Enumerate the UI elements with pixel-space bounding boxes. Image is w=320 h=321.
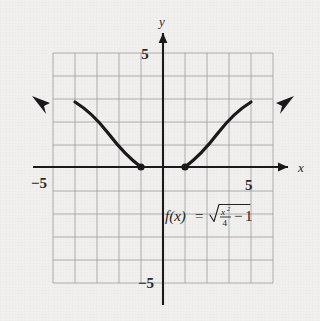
endpoint-dot-right	[181, 163, 188, 170]
x-axis-label: x	[297, 160, 304, 175]
figure-background	[0, 0, 320, 321]
y-axis-label: y	[157, 14, 165, 29]
x-tick-label-negative-five: −5	[31, 175, 47, 191]
formula-minus: −	[234, 208, 242, 224]
fraction-denominator: 4	[223, 218, 228, 228]
graph-figure: −5 5 5 −5 x y f(x) = x 2 4 − 1	[0, 0, 320, 321]
formula-equals: =	[195, 208, 203, 224]
y-tick-label-negative-five: −5	[138, 275, 154, 291]
coordinate-plane-svg: −5 5 5 −5 x y f(x) = x 2 4 − 1	[0, 0, 320, 321]
x-tick-label-positive-five: 5	[245, 177, 253, 193]
fraction-numerator: x	[220, 207, 225, 217]
formula-lhs: f(x)	[165, 208, 186, 225]
endpoint-dot-left	[137, 163, 144, 170]
y-tick-label-positive-five: 5	[141, 46, 149, 62]
formula-constant: 1	[245, 208, 253, 224]
